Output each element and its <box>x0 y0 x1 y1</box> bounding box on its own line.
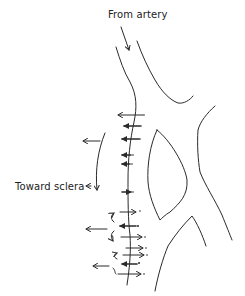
recirculation-curls <box>111 213 117 274</box>
diagram-canvas: From artery Toward sclera <box>0 0 245 296</box>
lumen-island <box>148 130 187 220</box>
vessel-wall-left <box>116 47 136 285</box>
vessel-diagram-svg <box>0 0 245 296</box>
inflow-arrow <box>121 27 129 50</box>
toward-sclera-arrow <box>83 133 105 190</box>
wall-arrows-lower <box>118 210 148 275</box>
toward-sclera-label: Toward sclera <box>15 181 84 192</box>
vessel-wall-right <box>137 41 232 291</box>
wall-arrows-upper <box>118 114 145 193</box>
outflow-arrows-left <box>86 229 109 266</box>
from-artery-label: From artery <box>108 9 167 20</box>
